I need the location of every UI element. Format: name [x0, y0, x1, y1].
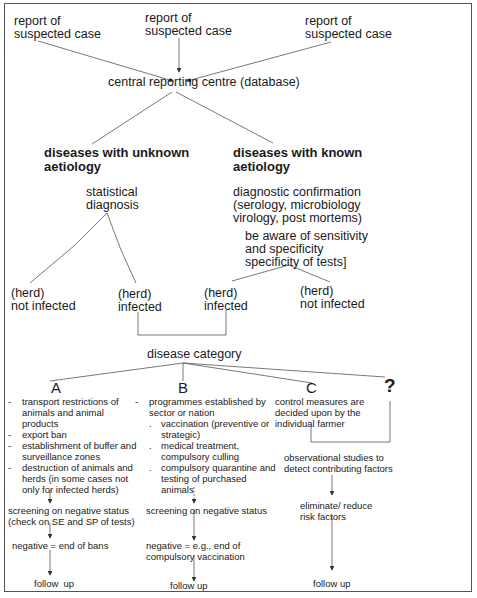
unknown-not-infected: (herd) not infected — [11, 287, 76, 313]
category-unknown-label: ? — [384, 379, 396, 392]
eliminate-risk-factors: eliminate/ reduce risk factors — [300, 500, 372, 522]
observational-studies: observational studies to detect contribu… — [284, 452, 393, 474]
category-c-text: control measures are decided upon by the… — [275, 396, 380, 429]
category-b-label: B — [178, 381, 188, 394]
report-node-right: report of suspected case — [305, 15, 392, 41]
category-a-item: -establishment of buffer and surveillanc… — [8, 440, 140, 462]
category-b-item: .medical treatment, compulsory culling — [149, 440, 280, 462]
known-not-infected: (herd) not infected — [300, 285, 365, 311]
category-unknown-follow-up: follow up — [313, 578, 351, 589]
category-a-item: -export ban — [8, 429, 140, 440]
category-b-negative: negative = e.g., end of compulsory vacci… — [146, 540, 245, 562]
category-b-item: .compulsory quarantine and testing of pu… — [149, 462, 280, 495]
category-a-follow-up: follow up — [34, 578, 74, 589]
category-a-item: -destruction of animals and herds (in so… — [8, 462, 140, 495]
report-node-left: report of suspected case — [14, 15, 101, 41]
unknown-aetiology-title: diseases with unknown aetiology — [44, 146, 189, 174]
category-b-intro: -programmes established by sector or nat… — [135, 396, 280, 495]
disease-category: disease category — [147, 348, 242, 361]
central-reporting-centre: central reporting centre (database) — [108, 76, 300, 89]
sensitivity-note: be aware of sensitivity and specificity … — [245, 230, 368, 269]
unknown-infected: (herd) infected — [118, 288, 162, 314]
category-b-measures: -programmes established by sector or nat… — [135, 396, 280, 495]
category-b-screening: screening on negative status — [146, 505, 267, 516]
category-c-label: C — [306, 381, 317, 394]
category-a-screening: screening on negative status (check on S… — [8, 505, 135, 527]
category-a-item: -transport restrictions of animals and a… — [8, 396, 140, 429]
category-a-label: A — [51, 381, 61, 394]
diagnostic-confirmation: diagnostic confirmation (serology, micro… — [233, 186, 362, 225]
report-node-center: report of suspected case — [145, 12, 232, 38]
category-a-measures: -transport restrictions of animals and a… — [8, 396, 140, 495]
category-a-negative: negative = end of bans — [12, 540, 108, 551]
category-b-follow-up: follow up — [170, 580, 208, 591]
category-b-item: .vaccination (preventive or strategic) — [149, 418, 280, 440]
known-infected: (herd) infected — [204, 287, 248, 313]
known-aetiology-title: diseases with known aetiology — [233, 146, 362, 174]
statistical-diagnosis: statistical diagnosis — [86, 186, 139, 212]
